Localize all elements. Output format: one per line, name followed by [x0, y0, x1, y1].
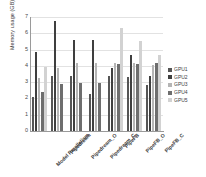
legend-swatch-icon	[168, 98, 172, 102]
bar	[108, 76, 111, 131]
y-tick-label: 7	[2, 14, 28, 20]
bar	[44, 67, 47, 131]
bar	[79, 83, 82, 131]
x-tick-label: Pipedream	[69, 132, 92, 155]
bar	[35, 52, 38, 131]
bar	[38, 78, 41, 131]
y-tick-label: 1	[2, 112, 28, 118]
legend-swatch-icon	[168, 68, 172, 72]
legend-label: GPU2	[174, 75, 188, 80]
bar	[76, 63, 79, 131]
y-axis-line	[30, 17, 31, 132]
bar	[95, 63, 98, 131]
bar-group	[127, 17, 143, 131]
chart-figure: Memory usage (GB) 76543210 Model Paralle…	[0, 0, 206, 177]
x-axis-labels: Model ParallelismPipedreamPipedream_OPip…	[30, 132, 164, 177]
bar	[117, 64, 120, 131]
bar	[149, 76, 152, 131]
bar-group	[70, 17, 86, 131]
legend-swatch-icon	[168, 91, 172, 95]
bar	[136, 64, 139, 131]
bar	[57, 68, 60, 131]
bar	[130, 55, 133, 131]
y-tick-label: 6	[2, 31, 28, 37]
bar	[133, 63, 136, 131]
y-axis-ticks: 76543210	[0, 17, 28, 132]
bar	[98, 83, 101, 131]
x-tick-label: PipeFB_C	[163, 132, 185, 154]
x-tick-label: PipeFB_O	[144, 132, 166, 154]
bar	[120, 28, 123, 131]
legend-item[interactable]: GPU2	[168, 74, 206, 82]
legend-swatch-icon	[168, 83, 172, 87]
bar	[54, 21, 57, 131]
y-tick-label: 5	[2, 47, 28, 53]
bar-group	[89, 17, 105, 131]
legend-item[interactable]: GPU1	[168, 66, 206, 74]
bar	[89, 94, 92, 131]
y-tick-label: 2	[2, 96, 28, 102]
legend-label: GPU1	[174, 67, 188, 72]
bar	[60, 84, 63, 131]
legend-label: GPU4	[174, 90, 188, 95]
legend-item[interactable]: GPU5	[168, 96, 206, 104]
legend-swatch-icon	[168, 75, 172, 79]
bar-group	[108, 17, 124, 131]
chart-legend: GPU1GPU2GPU3GPU4GPU5	[168, 66, 206, 104]
legend-label: GPU5	[174, 98, 188, 103]
bar	[114, 63, 117, 131]
bar	[155, 63, 158, 131]
bar-group	[51, 17, 67, 131]
bar	[41, 92, 44, 131]
bar	[32, 97, 35, 131]
bar	[111, 68, 114, 132]
bar	[51, 76, 54, 131]
bar	[152, 65, 155, 131]
bar	[127, 77, 130, 131]
y-tick-label: 3	[2, 79, 28, 85]
legend-label: GPU3	[174, 82, 188, 87]
bar	[70, 76, 73, 131]
bar-group	[32, 17, 48, 131]
bar-group	[146, 17, 162, 131]
legend-item[interactable]: GPU4	[168, 89, 206, 97]
bar	[139, 41, 142, 131]
legend-item[interactable]: GPU3	[168, 81, 206, 89]
x-tick-label: PipeFB	[123, 132, 140, 149]
bar	[92, 40, 95, 131]
bar	[146, 85, 149, 131]
bar	[73, 40, 76, 131]
y-tick-label: 4	[2, 63, 28, 69]
plot-area	[30, 17, 163, 131]
bar	[158, 55, 161, 131]
y-tick-label: 0	[2, 128, 28, 134]
